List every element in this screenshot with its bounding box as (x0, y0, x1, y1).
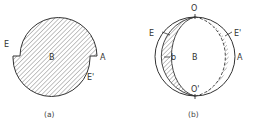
label-E: E (4, 40, 9, 49)
split-disk-shape (13, 18, 97, 97)
figure-b: O E E' b B A O' (b) (149, 4, 243, 119)
label-b: b (171, 53, 176, 62)
diagram-canvas: E B A E' (a) O E E' b B A O' (b) (0, 0, 255, 129)
label-E-prime: E' (234, 29, 241, 38)
caption-a: (a) (44, 110, 55, 119)
figure-a: E B A E' (a) (4, 18, 106, 120)
caption-b: (b) (188, 110, 199, 119)
label-B: B (192, 53, 198, 62)
dashed-boundary (195, 17, 225, 96)
label-O-prime: O' (191, 85, 200, 94)
label-A: A (237, 53, 243, 62)
label-E-prime: E' (87, 73, 94, 82)
label-A: A (100, 53, 106, 62)
label-E: E (149, 29, 154, 38)
label-B: B (49, 53, 55, 62)
label-O: O (191, 4, 197, 13)
